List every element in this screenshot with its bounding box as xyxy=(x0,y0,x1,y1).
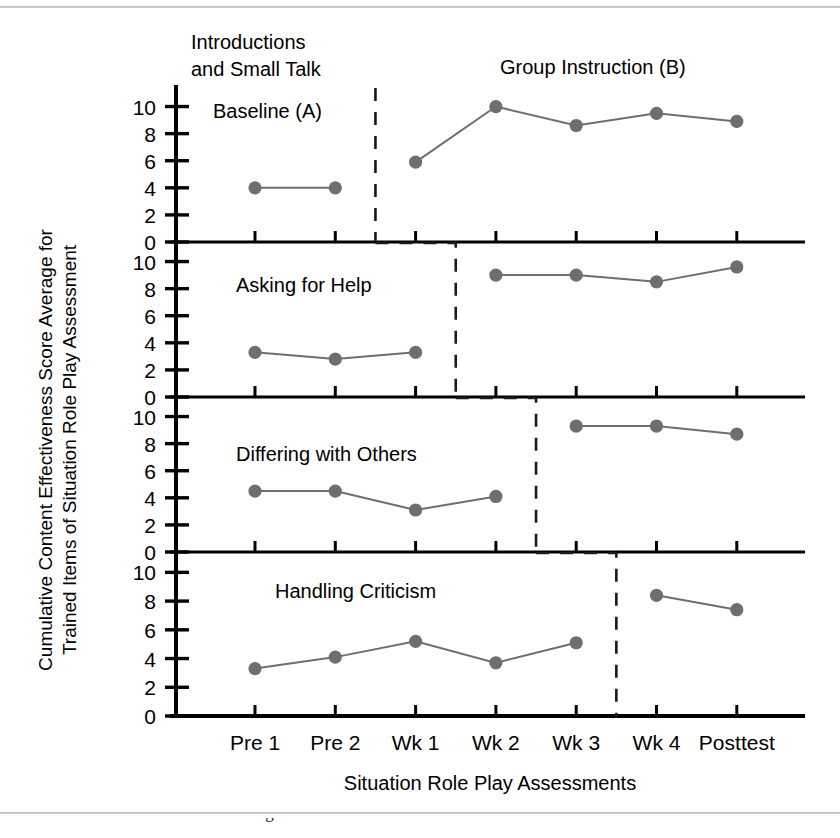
panel-4-baseline-point-5 xyxy=(570,636,583,649)
xtick-label-6: Wk 4 xyxy=(633,731,681,754)
panel-2-ytick-label-6: 6 xyxy=(144,305,156,328)
panel-1-intervention-point-2 xyxy=(489,100,502,113)
panel-2-intervention-point-3 xyxy=(650,275,663,288)
panel-4-baseline-point-3 xyxy=(409,635,422,648)
panel-3-intervention-point-2 xyxy=(650,419,663,432)
panel-3-ytick-label-6: 6 xyxy=(144,460,156,483)
panel-3-ytick-label-10: 10 xyxy=(133,406,156,429)
xtick-label-1: Pre 1 xyxy=(230,731,280,754)
panel-1-title: Baseline (A) xyxy=(213,100,322,122)
panel-4-baseline-point-1 xyxy=(248,662,261,675)
panel-2-intervention-line xyxy=(496,267,737,282)
panel-2-intervention-point-2 xyxy=(570,268,583,281)
panel-4-ytick-label-8: 8 xyxy=(144,590,156,613)
panel-3-baseline-point-2 xyxy=(329,484,342,497)
panel-3-ytick-label-8: 8 xyxy=(144,433,156,456)
panel-1-intervention-line xyxy=(416,107,737,163)
y-axis-title-line1: Cumulative Content Effectiveness Score A… xyxy=(35,228,56,670)
panel-3-baseline-point-4 xyxy=(489,490,502,503)
panel-2-baseline-point-2 xyxy=(329,352,342,365)
y-axis-title-line2: Trained Items of Situation Role Play Ass… xyxy=(59,244,80,655)
panel-3-intervention-point-3 xyxy=(730,428,743,441)
panel-4-baseline-point-2 xyxy=(329,651,342,664)
panel-1-intervention-point-1 xyxy=(409,155,422,168)
xtick-label-7: Posttest xyxy=(699,731,775,754)
panel-4-phase-change-line xyxy=(536,553,616,716)
panel-2-intervention-point-1 xyxy=(489,268,502,281)
xtick-label-3: Wk 1 xyxy=(392,731,440,754)
panel-1-baseline-point-2 xyxy=(329,181,342,194)
panel-2-ytick-label-2: 2 xyxy=(144,359,156,382)
caption-text: 1.1 Structure with behavior diagram ... … xyxy=(0,818,840,823)
bottom-divider-rule xyxy=(0,812,840,814)
panel-4-ytick-label-4: 4 xyxy=(144,648,156,671)
figure-container: 0246810024681002468100246810Baseline (A)… xyxy=(0,0,840,838)
panel-1-ytick-label-6: 6 xyxy=(144,150,156,173)
panel-3-phase-change-line xyxy=(456,398,536,552)
panel-3-intervention-point-1 xyxy=(570,419,583,432)
panel-3-ytick-label-4: 4 xyxy=(144,487,156,510)
panel-1-intervention-point-4 xyxy=(650,107,663,120)
chart-plot-area: 0246810024681002468100246810Baseline (A)… xyxy=(0,0,840,812)
panel-2-baseline-point-1 xyxy=(248,346,261,359)
xtick-label-5: Wk 3 xyxy=(552,731,600,754)
panel-3-title: Differing with Others xyxy=(236,443,417,465)
xtick-label-2: Pre 2 xyxy=(310,731,360,754)
panel-4-intervention-point-2 xyxy=(730,603,743,616)
panel-4-intervention-point-1 xyxy=(650,589,663,602)
panel-2-baseline-point-3 xyxy=(409,346,422,359)
panel-2-intervention-point-4 xyxy=(730,260,743,273)
multiple-baseline-chart: 0246810024681002468100246810Baseline (A)… xyxy=(0,0,840,812)
panel-4-baseline-point-4 xyxy=(489,656,502,669)
panel-4-intervention-line xyxy=(657,595,737,609)
xtick-label-4: Wk 2 xyxy=(472,731,520,754)
panel-3-baseline-point-1 xyxy=(248,484,261,497)
figure-caption-cropped: 1.1 Structure with behavior diagram ... … xyxy=(0,818,840,838)
panel-1-intervention-point-3 xyxy=(570,119,583,132)
panel-1-intervention-point-5 xyxy=(730,115,743,128)
panel-1-ytick-label-2: 2 xyxy=(144,204,156,227)
panel-2-ytick-label-8: 8 xyxy=(144,278,156,301)
panel-4-ytick-label-0: 0 xyxy=(144,705,156,728)
panel-4-ytick-label-2: 2 xyxy=(144,676,156,699)
panel-1-baseline-point-1 xyxy=(248,181,261,194)
panel-1-ytick-label-4: 4 xyxy=(144,177,156,200)
panel-3-baseline-point-3 xyxy=(409,503,422,516)
panel-1-ytick-label-8: 8 xyxy=(144,123,156,146)
panel-4-ytick-label-6: 6 xyxy=(144,619,156,642)
phase-header-intervention: Group Instruction (B) xyxy=(500,56,686,78)
panel-2-ytick-label-10: 10 xyxy=(133,251,156,274)
panel-4-title: Handling Criticism xyxy=(275,580,436,602)
panel-2-phase-change-line xyxy=(375,243,455,397)
panel-3-ytick-label-2: 2 xyxy=(144,514,156,537)
panel-3-baseline-line xyxy=(255,491,496,510)
panel-2-ytick-label-4: 4 xyxy=(144,332,156,355)
x-axis-title: Situation Role Play Assessments xyxy=(344,772,636,794)
phase-header-baseline-line2: and Small Talk xyxy=(191,58,322,80)
panel-1-ytick-label-10: 10 xyxy=(133,96,156,119)
panel-4-ytick-label-10: 10 xyxy=(133,561,156,584)
panel-2-title: Asking for Help xyxy=(236,274,372,296)
phase-header-baseline-line1: Introductions xyxy=(191,31,306,53)
